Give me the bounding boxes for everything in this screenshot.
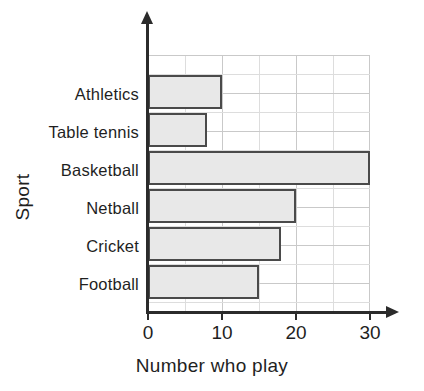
bar-athletics xyxy=(148,75,222,109)
x-tick-0 xyxy=(147,311,149,320)
y-axis-title: Sport xyxy=(12,157,34,237)
x-tick-label-10: 10 xyxy=(200,322,244,344)
plot-area xyxy=(148,55,370,313)
x-tick-20 xyxy=(295,311,297,320)
x-tick-label-20: 20 xyxy=(274,322,318,344)
y-tick-label-athletics: Athletics xyxy=(0,85,139,104)
bar-football xyxy=(148,265,259,299)
gridline-y-13 xyxy=(148,302,370,303)
gridline-y-top xyxy=(148,55,370,56)
y-tick-label-football: Football xyxy=(0,275,139,294)
x-tick-30 xyxy=(369,311,371,320)
bar-chart: Athletics Table tennis Basketball Netbal… xyxy=(0,0,424,391)
x-tick-10 xyxy=(221,311,223,320)
bar-basketball xyxy=(148,151,370,185)
bar-cricket xyxy=(148,227,281,261)
bar-netball xyxy=(148,189,296,223)
y-axis-arrow-icon xyxy=(141,11,153,24)
y-tick-label-cricket: Cricket xyxy=(0,237,139,256)
y-axis-line xyxy=(146,22,149,313)
y-tick-label-table-tennis: Table tennis xyxy=(0,123,139,142)
x-tick-label-0: 0 xyxy=(126,322,170,344)
x-axis-line xyxy=(146,311,389,314)
x-tick-label-30: 30 xyxy=(348,322,392,344)
x-axis-arrow-icon xyxy=(386,306,399,318)
x-axis-title: Number who play xyxy=(0,355,424,377)
bar-table-tennis xyxy=(148,113,207,147)
